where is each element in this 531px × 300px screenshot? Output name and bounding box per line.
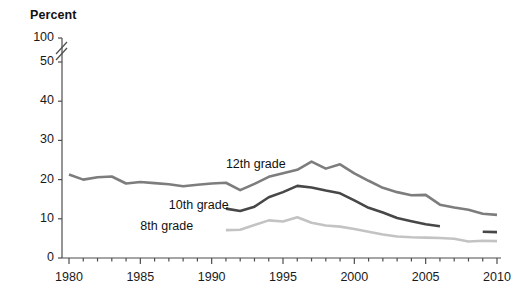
series-lines-group: [69, 162, 497, 242]
y-tick-label: 20: [20, 172, 54, 186]
y-tick-label: 50: [20, 54, 54, 68]
plot-area: [0, 0, 531, 300]
series-line-8th-grade: [226, 217, 497, 241]
series-label-12th-grade: 12th grade: [226, 157, 286, 171]
line-chart: Percent 01020304050100 19801985199019952…: [0, 0, 531, 300]
series-line-10th-grade: [226, 186, 440, 226]
x-tick-label: 2010: [467, 270, 527, 284]
x-tick-label: 1985: [110, 270, 170, 284]
y-tick-label: 30: [20, 132, 54, 146]
y-tick-label: 0: [20, 250, 54, 264]
x-tick-label: 1980: [39, 270, 99, 284]
y-tick-label: 10: [20, 211, 54, 225]
tick-marks-group: [58, 38, 497, 264]
y-tick-label: 40: [20, 93, 54, 107]
series-label-10th-grade: 10th grade: [169, 198, 229, 212]
x-tick-label: 1995: [253, 270, 313, 284]
y-tick-label: 100: [20, 30, 54, 44]
x-tick-label: 2000: [324, 270, 384, 284]
x-tick-label: 2005: [396, 270, 456, 284]
x-tick-label: 1990: [182, 270, 242, 284]
series-label-8th-grade: 8th grade: [140, 219, 193, 233]
